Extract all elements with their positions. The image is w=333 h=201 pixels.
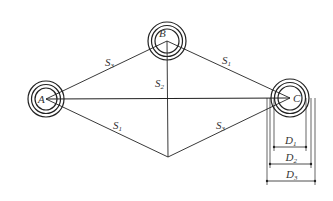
station-label-c: C [293, 92, 301, 104]
station-label-b: B [159, 27, 166, 39]
edge-label-s1: S1 [222, 54, 231, 68]
dimension-tick-left-d1 [273, 146, 275, 148]
surveying-network-diagram: ABCS3S2S1S1S3D1D2D3 [0, 0, 333, 201]
edge-bottom-c [168, 98, 290, 157]
edge-a-b [46, 41, 167, 99]
edge-b-bottom [167, 41, 168, 157]
edge-label-s1: S1 [113, 119, 122, 133]
dimension-tick-right-d3 [314, 180, 316, 182]
station-label-a: A [37, 93, 45, 105]
edge-a-bottom [46, 99, 168, 157]
dimension-tick-left-d3 [266, 180, 268, 182]
edge-b-c [167, 41, 290, 98]
dimension-tick-right-d2 [310, 163, 312, 165]
edge-label-s2: S2 [155, 77, 165, 91]
dimension-label-d1: D1 [284, 134, 296, 148]
diagram-svg: ABCS3S2S1S1S3D1D2D3 [0, 0, 333, 201]
dimension-label-d2: D2 [285, 151, 298, 165]
edge-a-c [46, 98, 290, 99]
dimension-label-d3: D3 [285, 168, 298, 182]
dimension-tick-left-d2 [269, 163, 271, 165]
edge-label-s3: S3 [105, 56, 115, 70]
dimension-tick-right-d1 [305, 146, 307, 148]
edge-label-s3: S3 [216, 119, 226, 133]
